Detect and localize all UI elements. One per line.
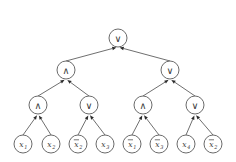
- leaf-subscript-label: 4: [186, 144, 190, 150]
- tree-edge: [66, 47, 116, 61]
- tree-edge: [120, 47, 170, 61]
- gate-node-or[interactable]: ∨: [186, 96, 204, 114]
- gate-label: ∨: [192, 100, 199, 111]
- gate-node-and[interactable]: ∧: [57, 61, 75, 79]
- tree-edge: [132, 115, 142, 135]
- leaf-node-literal[interactable]: x3: [96, 135, 114, 153]
- gate-label: ∨: [167, 65, 174, 76]
- tree-edge: [23, 115, 37, 135]
- leaf-subscript-label: 2: [78, 144, 82, 150]
- leaf-node-literal[interactable]: x1: [14, 135, 32, 153]
- leaf-node-literal[interactable]: x1: [123, 135, 141, 153]
- gate-label: ∧: [63, 65, 70, 76]
- tree-edge: [186, 115, 194, 135]
- leaf-node-literal[interactable]: x2: [69, 135, 87, 153]
- leaf-node-literal[interactable]: x3: [150, 135, 168, 153]
- tree-edge: [39, 115, 51, 135]
- edges-layer: [23, 47, 213, 135]
- gate-node-or[interactable]: ∨: [109, 29, 127, 47]
- gate-node-or[interactable]: ∨: [80, 96, 98, 114]
- gate-node-or[interactable]: ∨: [161, 61, 179, 79]
- gate-label: ∧: [140, 100, 147, 111]
- gate-node-and[interactable]: ∧: [134, 96, 152, 114]
- tree-edge: [143, 80, 169, 96]
- tree-edge: [196, 115, 213, 135]
- tree-edge: [144, 115, 159, 135]
- leaf-subscript-label: 3: [160, 144, 163, 150]
- nodes-layer: ∨∧∨∧∨∧∨x1x2x2x3x1x3x4x2: [14, 29, 222, 153]
- leaf-subscript-label: 3: [106, 144, 109, 150]
- leaf-subscript-label: 1: [133, 144, 136, 150]
- gate-label: ∧: [35, 100, 42, 111]
- leaf-subscript-label: 1: [24, 144, 27, 150]
- boolean-circuit-tree-figure: ∨∧∨∧∨∧∨x1x2x2x3x1x3x4x2: [0, 0, 236, 162]
- gate-label: ∨: [115, 33, 122, 44]
- leaf-node-literal[interactable]: x4: [177, 135, 195, 153]
- leaf-subscript-label: 2: [51, 144, 55, 150]
- tree-edge: [38, 80, 65, 96]
- gate-node-and[interactable]: ∧: [29, 96, 47, 114]
- tree-edge: [171, 80, 195, 96]
- gate-label: ∨: [86, 100, 93, 111]
- tree-edge: [78, 115, 88, 135]
- tree-edge: [90, 115, 105, 135]
- tree-edge: [67, 80, 89, 96]
- tree-diagram-canvas: ∨∧∨∧∨∧∨x1x2x2x3x1x3x4x2: [0, 0, 236, 162]
- leaf-node-literal[interactable]: x2: [42, 135, 60, 153]
- leaf-node-literal[interactable]: x2: [204, 135, 222, 153]
- leaf-subscript-label: 2: [213, 144, 217, 150]
